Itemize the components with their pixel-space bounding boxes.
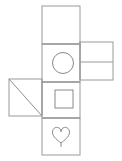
square-face-outline	[42, 82, 80, 118]
top-face-outline	[42, 6, 80, 44]
square-face	[42, 82, 80, 118]
diagonal-left-face	[9, 79, 42, 116]
cube-net-svg	[0, 0, 122, 161]
heart-face	[42, 118, 80, 155]
circle-face	[42, 44, 80, 82]
right-panel-outline	[80, 42, 113, 80]
circle-face-outline	[42, 44, 80, 82]
left-face-diagonal	[9, 79, 42, 116]
heart-face-outline	[42, 118, 80, 155]
square-shape-icon	[55, 90, 73, 108]
heart-shape-icon	[53, 127, 70, 146]
cube-net-figure	[0, 0, 122, 161]
fold-line-group	[42, 42, 80, 118]
divided-right-face	[80, 42, 113, 80]
circle-shape-icon	[53, 53, 74, 74]
top-face	[42, 6, 80, 44]
